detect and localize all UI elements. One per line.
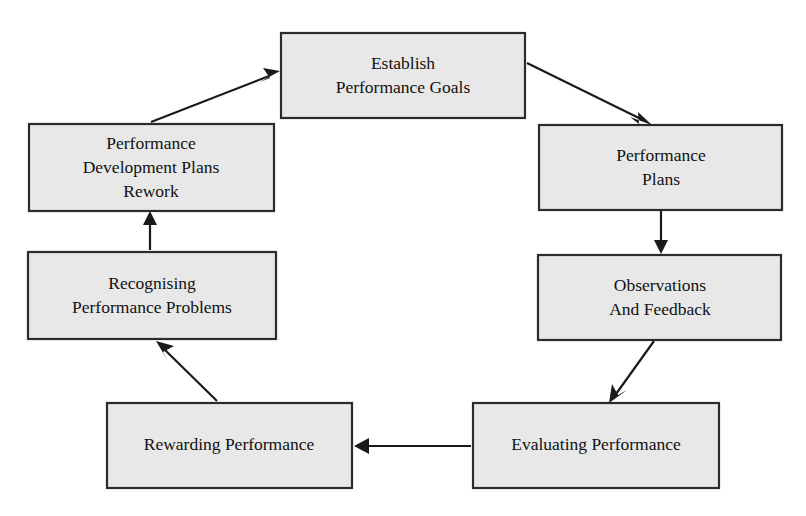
node-box[interactable] xyxy=(28,252,276,339)
node-observations-and-feedback[interactable]: Observations And Feedback xyxy=(538,255,781,340)
node-label-line-3: Rework xyxy=(123,181,179,201)
arrow-head xyxy=(609,384,627,403)
arrow-line xyxy=(616,341,654,394)
node-rewarding-performance[interactable]: Rewarding Performance xyxy=(107,403,352,488)
node-performance-plans[interactable]: Performance Plans xyxy=(539,125,782,210)
node-box[interactable] xyxy=(538,255,781,340)
arrow-head xyxy=(354,438,369,454)
node-label-line-2: And Feedback xyxy=(609,299,711,319)
node-label-line-1: Recognising xyxy=(108,273,196,293)
node-performance-development-plans-rework[interactable]: Performance Development Plans Rework xyxy=(29,124,274,211)
node-label-line-2: Development Plans xyxy=(83,157,220,177)
node-recognising-performance-problems[interactable]: Recognising Performance Problems xyxy=(28,252,276,339)
arrow-development-plans-to-goals xyxy=(151,68,280,122)
node-establish-performance-goals[interactable]: Establish Performance Goals xyxy=(281,33,525,118)
arrow-head xyxy=(143,211,157,225)
node-box[interactable] xyxy=(281,33,525,118)
arrow-observations-to-evaluating xyxy=(609,341,654,403)
performance-management-cycle-diagram: Establish Performance Goals Performance … xyxy=(0,0,806,516)
arrow-evaluating-to-rewarding xyxy=(354,438,471,454)
node-label-line-2: Performance Problems xyxy=(72,297,232,317)
node-label-line-1: Establish xyxy=(371,53,435,73)
arrow-head xyxy=(630,112,652,125)
node-label-line-1: Performance xyxy=(616,145,706,165)
arrow-recognising-to-development-plans xyxy=(143,211,157,250)
node-evaluating-performance[interactable]: Evaluating Performance xyxy=(473,403,719,488)
node-label-line-1: Rewarding Performance xyxy=(144,434,315,454)
arrow-line xyxy=(164,349,217,401)
arrow-line xyxy=(527,63,645,121)
arrow-head xyxy=(654,240,668,254)
node-label-line-1: Evaluating Performance xyxy=(511,434,681,454)
arrow-head xyxy=(260,68,280,82)
node-box[interactable] xyxy=(539,125,782,210)
node-label-line-2: Performance Goals xyxy=(336,77,471,97)
node-label-line-1: Performance xyxy=(106,133,196,153)
node-layer: Establish Performance Goals Performance … xyxy=(28,33,782,488)
arrow-line xyxy=(151,76,269,122)
node-label-line-2: Plans xyxy=(642,169,680,189)
arrow-goals-to-plans xyxy=(527,63,652,125)
node-label-line-1: Observations xyxy=(614,275,707,295)
diagram-canvas: Establish Performance Goals Performance … xyxy=(0,0,806,516)
arrow-rewarding-to-recognising xyxy=(156,341,217,401)
arrow-plans-to-observations xyxy=(654,211,668,254)
